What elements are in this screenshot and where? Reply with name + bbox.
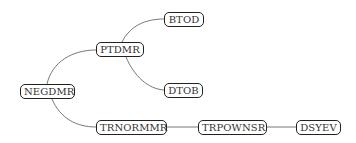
node-negdmr: NEGDMR (20, 84, 75, 99)
edge-ptdmr-dtob (126, 57, 164, 90)
node-trnormmr: TRNORMMR (96, 120, 167, 135)
node-ptdmr: PTDMR (96, 42, 144, 57)
node-trpownsr: TRPOWNSR (198, 120, 267, 135)
edge-negdmr-ptdmr (47, 50, 96, 84)
node-btod: BTOD (164, 12, 204, 27)
node-dtob: DTOB (164, 83, 203, 98)
edge-ptdmr-btod (122, 19, 164, 42)
node-dsyev: DSYEV (296, 120, 341, 135)
edge-negdmr-trnormmr (52, 99, 96, 127)
